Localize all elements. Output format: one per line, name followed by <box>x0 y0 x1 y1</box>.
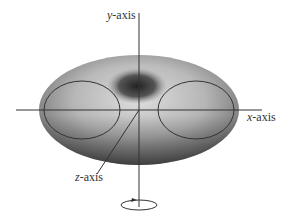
y-axis-suffix: -axis <box>112 8 135 22</box>
z-axis-suffix: -axis <box>80 170 103 184</box>
x-axis-suffix: -axis <box>252 110 275 124</box>
torus-diagram: y-axis x-axis z-axis <box>0 0 294 219</box>
z-axis-label: z-axis <box>75 170 103 185</box>
x-axis-label: x-axis <box>247 110 276 125</box>
y-axis-label: y-axis <box>107 8 136 23</box>
